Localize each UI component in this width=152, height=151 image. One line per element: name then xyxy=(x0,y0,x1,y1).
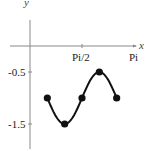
y-axis-label: y xyxy=(23,0,29,8)
y-tick-label-neg-1-5: -1.5 xyxy=(8,118,26,130)
x-tick-label-pi-half: Pi/2 xyxy=(72,51,90,63)
data-point xyxy=(78,94,85,101)
x-tick-label-pi: Pi xyxy=(129,51,138,63)
data-points xyxy=(44,68,121,127)
data-point xyxy=(113,94,120,101)
data-point xyxy=(44,94,51,101)
x-axis-label: x xyxy=(138,39,144,51)
data-point xyxy=(96,68,103,75)
y-tick-label-neg-0-5: -0.5 xyxy=(8,66,26,78)
x-axis-arrow-icon xyxy=(133,45,137,48)
data-point xyxy=(61,120,68,127)
sine-chart: y x Pi/2 Pi -0.5 -1.5 xyxy=(0,0,152,151)
